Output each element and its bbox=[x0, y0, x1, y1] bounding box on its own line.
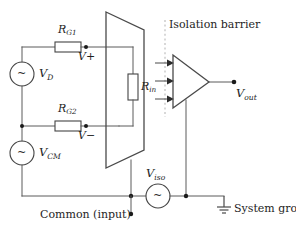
v-out-label: Vout bbox=[236, 88, 257, 100]
v-d-tilde-symbol: ~ bbox=[17, 68, 26, 79]
r-g1-label: RG1 bbox=[58, 24, 77, 35]
r-in-label: Rin bbox=[141, 81, 156, 92]
system-ground-label: System ground bbox=[234, 203, 296, 214]
node-dot-vcm-junction bbox=[20, 124, 24, 128]
v-iso-tilde-symbol: ~ bbox=[153, 190, 162, 201]
r-in-body bbox=[128, 74, 138, 100]
common-input-label: Common (input) bbox=[40, 209, 131, 220]
v-d-label: VD bbox=[39, 68, 53, 80]
v-plus-label: V+ bbox=[78, 51, 95, 62]
v-minus-label: V− bbox=[78, 130, 95, 141]
node-dot-vminus bbox=[84, 124, 88, 128]
circuit-diagram-figure: ~ ~ ~ RG1 RG2 Rin VD VCM Viso Vout V+ V−… bbox=[0, 0, 296, 232]
circuit-svg bbox=[0, 0, 296, 232]
vout-terminal-dot bbox=[232, 80, 237, 85]
v-iso-label: Viso bbox=[146, 168, 165, 180]
isolation-amplifier-triangle bbox=[173, 55, 209, 108]
node-dot-vplus bbox=[84, 45, 88, 49]
r-g2-label: RG2 bbox=[58, 103, 77, 114]
v-cm-label: VCM bbox=[39, 147, 61, 159]
isolation-barrier-label: Isolation barrier bbox=[169, 19, 260, 30]
v-cm-tilde-symbol: ~ bbox=[17, 147, 26, 158]
node-dot-ground-rail bbox=[184, 194, 188, 198]
